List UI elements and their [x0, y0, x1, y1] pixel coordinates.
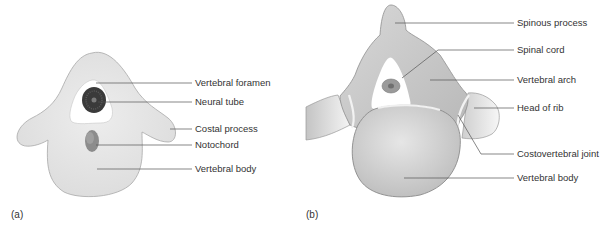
label-neural-tube: Neural tube [195, 96, 244, 107]
label-vertebral-body-a: Vertebral body [195, 163, 256, 174]
label-vertebral-body-b: Vertebral body [517, 172, 578, 183]
label-notochord: Notochord [195, 139, 239, 150]
label-head-of-rib: Head of rib [517, 102, 563, 113]
label-vertebral-arch: Vertebral arch [517, 74, 576, 85]
panel-a-embryonic-vertebra [17, 52, 192, 196]
panel-label-b: (b) [306, 209, 318, 220]
panel-label-a: (a) [11, 209, 23, 220]
label-costovertebral-joint: Costovertebral joint [517, 148, 599, 159]
vertebral-body-b [352, 105, 460, 197]
vertebra-outline-a [17, 52, 175, 196]
vertebra-diagram [0, 0, 612, 240]
label-costal-process: Costal process [195, 123, 258, 134]
label-vertebral-foramen: Vertebral foramen [195, 77, 271, 88]
label-spinal-cord: Spinal cord [517, 44, 565, 55]
panel-b-adult-vertebra [306, 5, 514, 197]
label-spinous-process: Spinous process [517, 17, 587, 28]
